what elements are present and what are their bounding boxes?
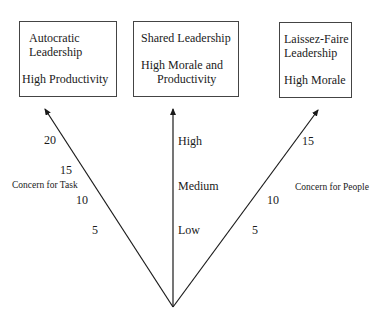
task-axis-arrow bbox=[45, 109, 173, 307]
people-tick-15: 15 bbox=[302, 134, 314, 148]
laissez-title-line1: Laissez-Faire bbox=[284, 32, 351, 46]
autocratic-title-line2: Leadership bbox=[20, 45, 116, 59]
leadership-tick-low: Low bbox=[178, 223, 200, 237]
people-axis-label: Concern for People bbox=[295, 182, 369, 193]
autocratic-outcome: High Productivity bbox=[20, 72, 116, 86]
shared-outcome-line1: High Morale and bbox=[134, 58, 238, 72]
people-tick-5: 5 bbox=[252, 223, 258, 237]
shared-outcome-line2: Productivity bbox=[134, 72, 238, 86]
task-tick-10: 10 bbox=[76, 193, 88, 207]
autocratic-leadership-box: Autocratic Leadership High Productivity bbox=[19, 21, 117, 97]
leadership-tick-medium: Medium bbox=[178, 179, 219, 193]
leadership-tick-high: High bbox=[178, 134, 202, 148]
autocratic-title-line1: Autocratic bbox=[20, 31, 116, 45]
task-tick-15: 15 bbox=[60, 163, 72, 177]
task-axis-label: Concern for Task bbox=[12, 180, 78, 191]
task-tick-20: 20 bbox=[44, 133, 56, 147]
laissez-outcome: High Morale bbox=[284, 73, 351, 87]
laissez-title-line2: Leadership bbox=[284, 46, 351, 60]
people-tick-10: 10 bbox=[267, 193, 279, 207]
shared-title: Shared Leadership bbox=[134, 31, 238, 45]
shared-leadership-box: Shared Leadership High Morale and Produc… bbox=[133, 21, 239, 97]
task-tick-5: 5 bbox=[92, 223, 98, 237]
laissez-faire-leadership-box: Laissez-Faire Leadership High Morale bbox=[279, 22, 352, 98]
